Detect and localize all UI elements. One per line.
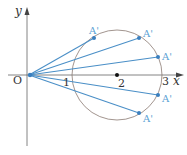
point-a-4: [156, 93, 160, 97]
segments: [29, 38, 158, 113]
point-label-a-3: A': [161, 51, 172, 62]
point-a-5: [137, 111, 141, 115]
x-axis-label: x: [173, 74, 180, 88]
segment-3: [29, 57, 158, 75]
point-a-3: [156, 55, 160, 59]
origin-point: [28, 73, 32, 77]
tick-label-1: 1: [63, 76, 70, 89]
point-label-a-2: A': [142, 28, 153, 39]
y-axis-label: y: [14, 4, 22, 18]
segment-4: [29, 75, 158, 95]
tick-label-2: 2: [118, 77, 125, 90]
point-label-a-1: A': [88, 25, 99, 36]
point-label-a-5: A': [142, 113, 153, 124]
point-a-2: [137, 36, 141, 40]
points: [28, 36, 160, 115]
diagram-canvas: y x O 1 2 3 A' A' A' A' A': [0, 0, 187, 155]
y-axis-arrow-icon: [25, 7, 30, 15]
point-a-1: [92, 36, 96, 40]
tick-label-3: 3: [162, 75, 169, 88]
origin-label: O: [13, 74, 22, 87]
point-label-a-4: A': [161, 93, 172, 104]
